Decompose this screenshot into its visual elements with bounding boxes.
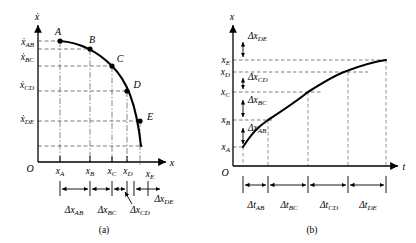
panel-a-origin-label: O xyxy=(26,163,33,174)
panel-b-interval-labels: ΔtAB ΔtBC ΔtCD ΔtDE xyxy=(247,200,378,212)
panel-b-ytick-2-sub: C xyxy=(225,91,230,99)
panel-a-dxcd-leader xyxy=(125,192,132,204)
panel-a-interval-2-sub: CD xyxy=(140,209,150,217)
point-label-a: A xyxy=(54,26,62,37)
svg-text:ΔtAB: ΔtAB xyxy=(247,200,265,212)
svg-text:ΔxCD: ΔxCD xyxy=(129,205,150,217)
figure-svg: A B C D E ẋ x O ẋAB ẋBC ẋCD ẋDE xyxy=(0,0,416,243)
panel-a-ytick-1-sub: BC xyxy=(25,56,34,64)
svg-text:xA: xA xyxy=(221,142,231,154)
point-d xyxy=(124,88,129,93)
panel-b-interval-2-base: Δt xyxy=(319,200,329,210)
panel-a-y-tick-labels: ẋAB ẋBC ẋCD ẋDE xyxy=(19,37,35,126)
svg-text:ΔxDE: ΔxDE xyxy=(247,31,268,43)
svg-text:ΔxBC: ΔxBC xyxy=(97,205,117,217)
panel-b-interval-1-sub: BC xyxy=(289,204,298,212)
panel-a-interval-labels: ΔxAB ΔxBC ΔxCD ΔxDE xyxy=(64,194,174,217)
panel-a-x-ticks xyxy=(60,156,127,162)
panel-b-x-axis-label: t xyxy=(403,161,406,172)
panel-a-caption: (a) xyxy=(99,225,110,236)
svg-text:ΔxBC: ΔxBC xyxy=(247,95,267,107)
point-label-b: B xyxy=(89,34,95,45)
panel-b-inc-3-sub: AB xyxy=(257,127,267,135)
panel-b-ytick-1-sub: D xyxy=(224,71,230,79)
svg-text:xB: xB xyxy=(85,166,95,178)
svg-text:xB: xB xyxy=(221,115,231,127)
panel-a-y-axis-label-text: ẋ xyxy=(34,11,40,22)
panel-a: A B C D E ẋ x O ẋAB ẋBC ẋCD ẋDE xyxy=(19,11,175,236)
svg-text:ΔtDE: ΔtDE xyxy=(358,200,377,212)
point-a xyxy=(57,38,62,43)
panel-b-interval-2-sub: CD xyxy=(328,204,338,212)
panel-b-ytick-3-sub: B xyxy=(226,119,231,127)
svg-text:ΔxCD: ΔxCD xyxy=(247,72,268,84)
figure-container: A B C D E ẋ x O ẋAB ẋBC ẋCD ẋDE xyxy=(0,0,416,243)
panel-a-interval-3-sub: DE xyxy=(163,198,174,206)
panel-a-x-axis-label: x xyxy=(169,157,175,168)
panel-a-xtick-4-sub: E xyxy=(149,173,155,181)
svg-text:ẋAB: ẋAB xyxy=(20,37,34,49)
svg-text:ΔtBC: ΔtBC xyxy=(279,200,297,212)
svg-text:xC: xC xyxy=(107,166,117,178)
svg-text:ẋDE: ẋDE xyxy=(19,114,34,126)
panel-b-interval-0-base: Δt xyxy=(247,200,257,210)
panel-b-inc-1-sub: CD xyxy=(258,76,268,84)
panel-b: xE xD xC xB xA ΔxDE xyxy=(220,11,406,236)
svg-text:ΔxDE: ΔxDE xyxy=(153,194,174,206)
svg-text:ẋBC: ẋBC xyxy=(20,52,34,64)
svg-text:xE: xE xyxy=(145,169,155,181)
panel-a-data-points xyxy=(57,38,142,123)
svg-text:ΔxAB: ΔxAB xyxy=(64,205,84,217)
svg-text:xD: xD xyxy=(122,166,132,178)
svg-text:ΔtCD: ΔtCD xyxy=(319,200,338,212)
panel-b-origin-label: O xyxy=(221,167,228,178)
panel-a-interval-0-sub: AB xyxy=(74,209,84,217)
svg-text:ΔxAB: ΔxAB xyxy=(247,123,267,135)
panel-a-ytick-3-sub: DE xyxy=(24,118,35,126)
panel-b-inc-0-sub: DE xyxy=(257,35,268,43)
panel-b-ytick-0-sub: E xyxy=(225,59,231,67)
panel-a-x-tick-labels: xA xB xC xD xE xyxy=(55,166,155,181)
panel-b-interval-1-base: Δt xyxy=(279,200,289,210)
panel-a-xtick-2-sub: C xyxy=(112,170,117,178)
panel-b-interval-ruler xyxy=(243,176,386,193)
svg-text:xD: xD xyxy=(220,67,230,79)
panel-a-ytick-0-sub: AB xyxy=(24,41,34,49)
panel-a-interval-ruler xyxy=(60,181,148,196)
svg-text:xA: xA xyxy=(55,166,65,178)
panel-b-y-axis-label: x xyxy=(229,11,235,22)
panel-a-xtick-0-sub: A xyxy=(59,170,65,178)
panel-a-y-axis-label: ẋ xyxy=(34,11,40,22)
point-c xyxy=(109,63,114,68)
point-b xyxy=(87,46,92,51)
panel-a-xtick-1-sub: B xyxy=(90,170,95,178)
panel-b-y-tick-labels: xE xD xC xB xA xyxy=(220,55,231,154)
panel-b-caption: (b) xyxy=(306,225,317,236)
point-e xyxy=(137,118,142,123)
svg-text:xE: xE xyxy=(221,55,231,67)
svg-text:xC: xC xyxy=(220,87,230,99)
panel-b-inc-2-sub: BC xyxy=(258,99,267,107)
panel-a-curve xyxy=(60,41,141,146)
point-label-d: D xyxy=(132,79,141,90)
panel-b-interval-3-sub: DE xyxy=(366,204,377,212)
panel-a-ytick-2-sub: CD xyxy=(24,84,34,92)
panel-b-interval-0-sub: AB xyxy=(255,204,265,212)
panel-b-increment-labels: ΔxDE ΔxCD ΔxBC ΔxAB xyxy=(247,31,268,135)
point-label-c: C xyxy=(117,53,124,64)
point-label-e: E xyxy=(146,111,153,122)
panel-b-ytick-4-sub: A xyxy=(225,146,231,154)
panel-b-interval-3-base: Δt xyxy=(358,200,368,210)
panel-a-interval-1-sub: BC xyxy=(107,209,116,217)
panel-a-vertical-gridlines xyxy=(60,41,140,166)
svg-text:ẋCD: ẋCD xyxy=(19,80,34,92)
panel-a-xtick-3-sub: D xyxy=(127,170,133,178)
